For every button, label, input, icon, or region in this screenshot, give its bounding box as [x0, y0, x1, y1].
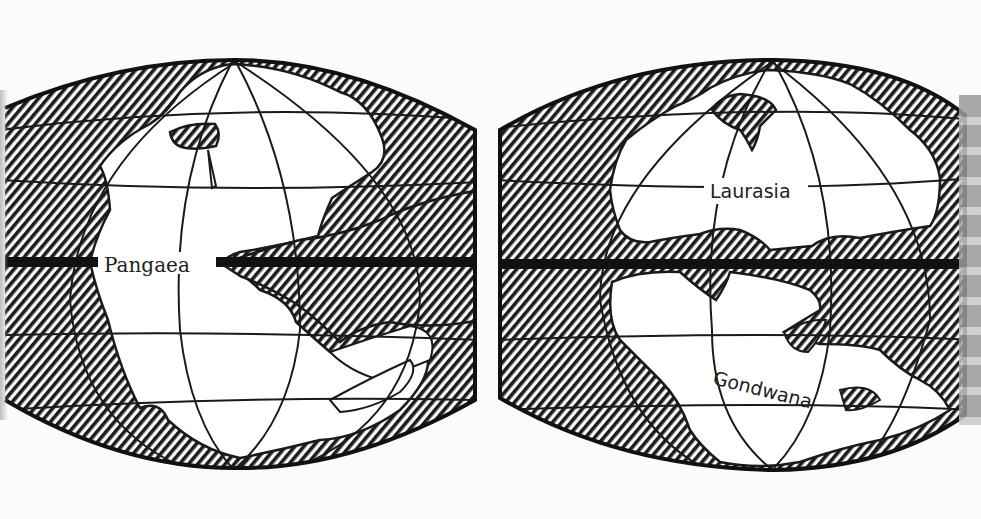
- label-pangaea: Pangaea: [104, 253, 190, 277]
- map-laurasia-gondwana: Laurasia Gondwana: [495, 50, 981, 480]
- page-edge-shadow-left: [0, 90, 8, 420]
- figure-container: Pangaea: [0, 0, 981, 519]
- page-edge-shadow-right: [959, 95, 981, 425]
- label-laurasia: Laurasia: [710, 180, 791, 202]
- map-pangaea: Pangaea: [0, 50, 490, 480]
